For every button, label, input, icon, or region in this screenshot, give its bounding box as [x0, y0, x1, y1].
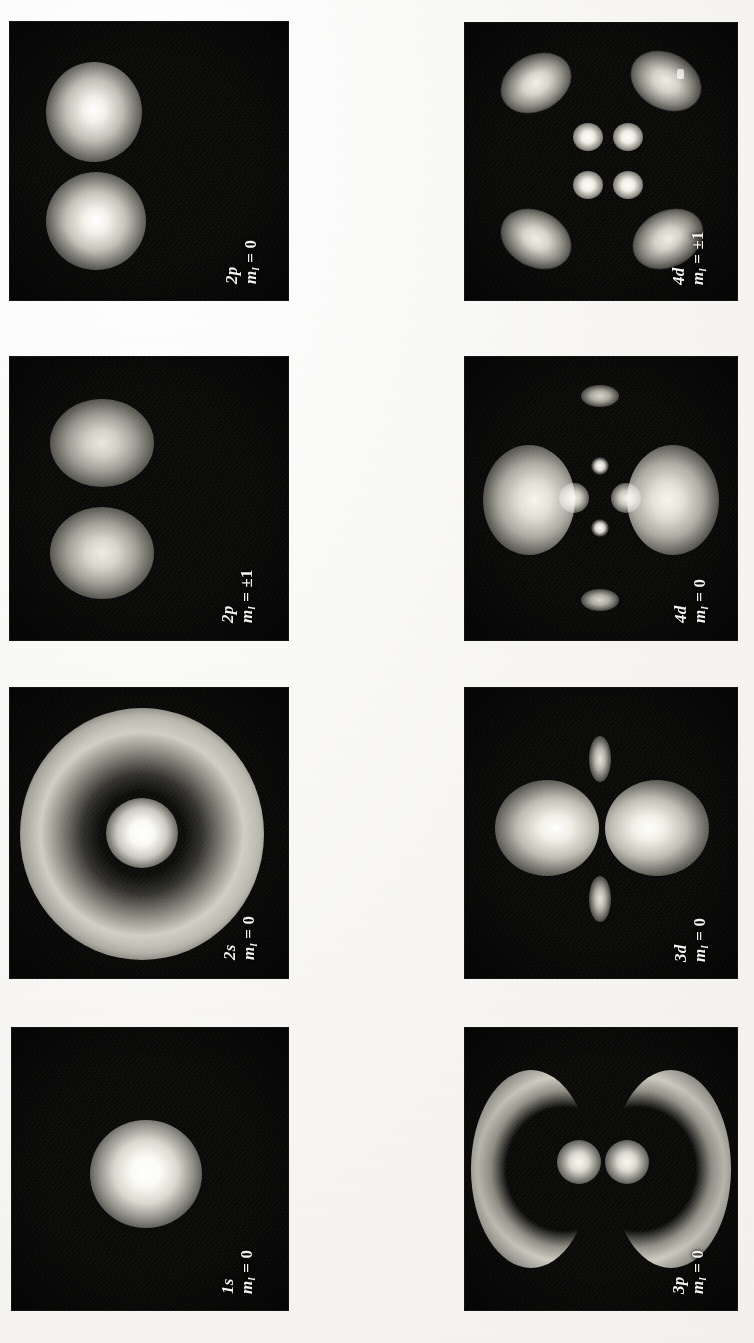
panel-4d-m0: 4d ml = 0 [465, 357, 737, 640]
caption-m-value: ml = 0 [688, 1250, 708, 1294]
lobe [46, 172, 146, 270]
major-lobe [495, 780, 599, 876]
caption-orbital: 3d [671, 918, 690, 962]
panel-4d-mpm1: 4d ml = ±1 [465, 23, 737, 300]
core [106, 798, 178, 868]
caption-orbital: 1s [218, 1250, 237, 1294]
panel-caption-4d-mpm1: 4d ml = ±1 [669, 231, 708, 285]
lobe [46, 62, 142, 162]
panel-2p-m0: 2p ml = 0 [10, 22, 288, 300]
caption-orbital: 4d [669, 231, 688, 285]
core [557, 1140, 601, 1184]
caption-orbital: 2s [220, 916, 239, 960]
panel-caption-3p-m0: 3p ml = 0 [669, 1250, 708, 1294]
lobe [50, 399, 154, 487]
panel-caption-3d-m0: 3d ml = 0 [671, 918, 710, 962]
outer-lobe [620, 39, 712, 123]
caption-m-value: ml = 0 [239, 916, 259, 960]
pole-spot [581, 589, 619, 611]
panel-caption-1s-m0: 1s ml = 0 [218, 1250, 257, 1294]
orbital-photograph-figure: 2p ml = 0 2p ml = ±1 2s ml = 0 [0, 0, 754, 1343]
speck [677, 69, 684, 79]
caption-orbital: 2p [222, 240, 241, 284]
polar-lobe [589, 736, 611, 782]
panel-2s-m0: 2s ml = 0 [10, 688, 288, 978]
outer-lobe [490, 197, 582, 281]
inner-spot [559, 483, 589, 513]
caption-orbital: 3p [669, 1250, 688, 1294]
panel-caption-2p-mpm1: 2p ml = ±1 [218, 569, 257, 623]
panel-1s-m0: 1s ml = 0 [12, 1028, 288, 1310]
polar-lobe [589, 876, 611, 922]
caption-m-value: ml = 0 [241, 240, 261, 284]
lobe [50, 507, 154, 599]
core [90, 1120, 202, 1228]
caption-m-value: ml = 0 [237, 1250, 257, 1294]
inner-spot [573, 123, 603, 151]
panel-3p-m0: 3p ml = 0 [465, 1028, 737, 1310]
caption-orbital: 4d [671, 579, 690, 623]
pole-spot [581, 385, 619, 407]
panel-caption-2s-m0: 2s ml = 0 [220, 916, 259, 960]
panel-2p-mpm1: 2p ml = ±1 [10, 357, 288, 640]
inner-spot [611, 483, 641, 513]
panel-caption-2p-m0: 2p ml = 0 [222, 240, 261, 284]
caption-m-value: ml = ±1 [688, 231, 708, 285]
caption-m-value: ml = 0 [690, 579, 710, 623]
caption-orbital: 2p [218, 569, 237, 623]
inner-spot [591, 519, 609, 537]
inner-spot [591, 457, 609, 475]
caption-m-value: ml = ±1 [237, 569, 257, 623]
outer-lobe [490, 41, 582, 125]
inner-spot [613, 171, 643, 199]
inner-spot [613, 123, 643, 151]
panel-caption-4d-m0: 4d ml = 0 [671, 579, 710, 623]
panel-3d-m0: 3d ml = 0 [465, 688, 737, 978]
major-lobe [605, 780, 709, 876]
core [605, 1140, 649, 1184]
caption-m-value: ml = 0 [690, 918, 710, 962]
inner-spot [573, 171, 603, 199]
